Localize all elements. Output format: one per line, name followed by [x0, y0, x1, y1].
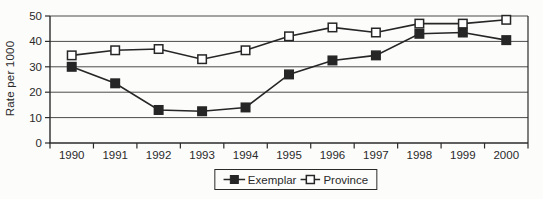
filled-square-marker: [415, 30, 424, 38]
x-tick-label: 1999: [450, 149, 476, 161]
y-tick-label: 20: [29, 86, 42, 98]
legend-label-province: Province: [323, 174, 368, 186]
y-tick-label: 50: [29, 10, 42, 22]
open-square-marker: [459, 19, 468, 28]
open-square-marker: [285, 32, 294, 41]
y-tick-label: 0: [36, 137, 42, 149]
legend-label-exemplar: Exemplar: [248, 174, 297, 186]
filled-square-marker: [111, 79, 120, 88]
filled-square-marker: [372, 51, 381, 60]
y-tick-label: 10: [29, 112, 42, 124]
legend-item-province: Province: [300, 174, 368, 186]
line-chart-plot: 0102030405019901991199219931994199519961…: [0, 0, 543, 165]
x-tick-label: 1992: [146, 149, 172, 161]
filled-square-marker: [198, 107, 207, 116]
legend: Exemplar Province: [214, 169, 377, 190]
open-square-marker-icon: [300, 174, 320, 185]
x-tick-label: 1996: [320, 149, 346, 161]
filled-square-marker: [285, 70, 294, 79]
open-square-marker: [328, 23, 337, 32]
legend-item-exemplar: Exemplar: [223, 174, 297, 186]
y-axis-title: Rate per 1000: [4, 9, 19, 149]
open-square-marker: [154, 45, 163, 54]
chart-figure: Rate per 1000 01020304050199019911992199…: [0, 0, 543, 199]
filled-square-marker: [154, 106, 163, 115]
filled-square-marker-icon: [223, 174, 245, 185]
x-tick-label: 1991: [102, 149, 128, 161]
open-square-marker: [415, 19, 424, 28]
open-square-marker: [111, 46, 120, 55]
x-tick-label: 1997: [363, 149, 389, 161]
x-tick-label: 1998: [407, 149, 433, 161]
x-tick-label: 1990: [59, 149, 85, 161]
x-tick-label: 1995: [276, 149, 302, 161]
x-tick-label: 2000: [493, 149, 519, 161]
open-square-marker: [198, 55, 207, 64]
filled-square-marker: [241, 103, 250, 112]
filled-square-marker: [502, 36, 511, 45]
filled-square-marker: [67, 63, 76, 72]
x-tick-label: 1994: [233, 149, 259, 161]
open-square-marker: [241, 46, 250, 55]
filled-square-marker: [459, 28, 468, 37]
open-square-marker: [67, 51, 76, 60]
filled-square-marker: [328, 56, 337, 64]
y-tick-label: 40: [29, 35, 42, 47]
open-square-marker: [372, 28, 381, 37]
y-tick-label: 30: [29, 61, 42, 73]
x-tick-label: 1993: [189, 149, 215, 161]
open-square-marker: [502, 16, 511, 25]
